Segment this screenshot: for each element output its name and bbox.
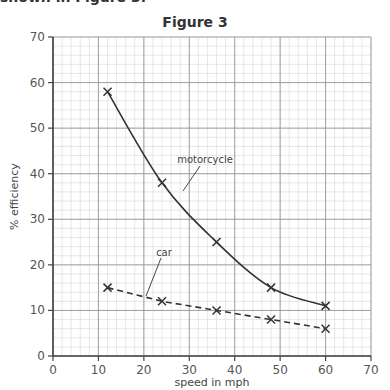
car-leader-line: [146, 258, 161, 296]
x-axis-label: speed in mph: [175, 376, 250, 389]
x-tick-label: 70: [363, 363, 378, 377]
y-tick-label: 30: [30, 212, 45, 226]
x-tick-label: 30: [182, 363, 197, 377]
y-tick-label: 40: [30, 167, 45, 181]
y-tick-label: 60: [30, 76, 45, 90]
x-tick-label: 10: [91, 363, 106, 377]
x-tick-label: 0: [49, 363, 57, 377]
y-axis-label: % efficiency: [8, 163, 21, 230]
y-tick-label: 20: [30, 258, 45, 272]
x-tick-label: 40: [227, 363, 242, 377]
x-tick-label: 50: [273, 363, 288, 377]
motorcycle-label: motorcycle: [177, 154, 233, 165]
y-tick-label: 50: [30, 121, 45, 135]
motorcycle-leader-line: [183, 166, 200, 191]
x-tick-label: 20: [136, 363, 151, 377]
y-tick-label: 70: [30, 30, 45, 44]
x-tick-label: 60: [318, 363, 333, 377]
efficiency-chart: 010203040506070010203040506070speed in m…: [0, 0, 390, 390]
car-label: car: [156, 247, 173, 258]
y-tick-label: 0: [37, 349, 45, 363]
y-tick-label: 10: [30, 303, 45, 317]
